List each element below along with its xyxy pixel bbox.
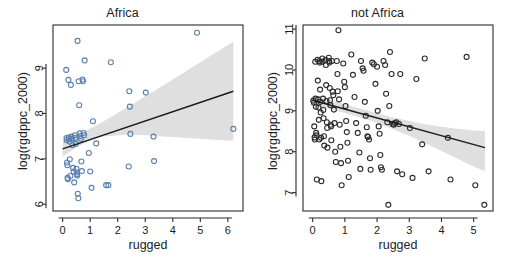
data-point — [352, 94, 357, 99]
data-point — [344, 119, 349, 124]
scatter-plot-africa: 01234566789 — [0, 0, 255, 263]
y-tick-label: 9 — [33, 65, 45, 71]
data-point — [333, 149, 338, 154]
data-point — [422, 56, 427, 61]
x-tick-label: 1 — [87, 224, 93, 236]
data-point — [344, 130, 349, 135]
data-point — [346, 158, 351, 163]
data-point — [335, 72, 340, 77]
data-point — [316, 117, 321, 122]
data-point — [362, 99, 367, 104]
scatter-plot-not-africa: 0123457891011 — [255, 0, 510, 263]
data-point — [315, 78, 320, 83]
data-point — [195, 30, 200, 35]
data-point — [386, 202, 391, 207]
x-tick-label: 6 — [225, 224, 231, 236]
data-point — [364, 125, 369, 130]
data-point — [72, 180, 77, 185]
y-tick-label: 11 — [283, 23, 295, 34]
data-point — [375, 108, 380, 113]
data-point — [341, 61, 346, 66]
x-tick-label: 4 — [438, 224, 444, 236]
data-point — [339, 161, 344, 166]
x-tick-label: 0 — [310, 224, 316, 236]
data-point — [79, 159, 84, 164]
data-point — [367, 156, 372, 161]
data-point — [337, 122, 342, 127]
data-point — [94, 141, 99, 146]
data-point — [426, 169, 431, 174]
data-point — [79, 169, 84, 174]
data-point — [387, 49, 392, 54]
data-point — [482, 202, 487, 207]
data-point — [350, 72, 355, 77]
data-point — [398, 72, 403, 77]
data-point — [82, 58, 87, 63]
data-point — [377, 131, 382, 136]
data-point — [75, 38, 80, 43]
x-tick-label: 5 — [197, 224, 203, 236]
data-point — [384, 91, 389, 96]
data-point — [389, 72, 394, 77]
panel-africa: Africa log(rgdppc_2000) rugged 012345667… — [0, 0, 255, 263]
data-point — [143, 90, 148, 95]
y-tick-label: 6 — [33, 201, 45, 207]
data-point — [400, 172, 405, 177]
plot-frame — [303, 25, 493, 211]
data-point — [90, 119, 95, 124]
data-point — [67, 157, 72, 162]
y-tick-label: 9 — [283, 108, 295, 114]
x-tick-label: 4 — [170, 224, 176, 236]
data-point — [342, 85, 347, 90]
data-point — [395, 169, 400, 174]
data-point — [349, 52, 354, 57]
data-point — [127, 89, 132, 94]
data-point — [64, 67, 69, 72]
data-point — [66, 77, 71, 82]
x-tick-label: 5 — [471, 224, 477, 236]
x-tick-label: 2 — [115, 224, 121, 236]
data-point — [376, 124, 381, 129]
data-point — [373, 81, 378, 86]
data-point — [342, 79, 347, 84]
data-point — [368, 167, 373, 172]
x-tick-label: 0 — [60, 224, 66, 236]
data-point — [378, 153, 383, 158]
data-point — [312, 124, 317, 129]
data-point — [108, 60, 113, 65]
data-point — [334, 58, 339, 63]
y-tick-label: 7 — [33, 156, 45, 162]
data-point — [68, 82, 73, 87]
data-point — [420, 142, 425, 147]
data-point — [464, 54, 469, 59]
data-point — [448, 177, 453, 182]
y-tick-label: 8 — [33, 110, 45, 116]
data-point — [77, 103, 82, 108]
data-point — [345, 140, 350, 145]
data-point — [358, 166, 363, 171]
x-tick-label: 3 — [142, 224, 148, 236]
x-tick-label: 1 — [342, 224, 348, 236]
y-tick-label: 8 — [283, 149, 295, 155]
panel-not-africa: not Africa log(rgdppc_2000) rugged 01234… — [255, 0, 510, 263]
data-point — [126, 164, 131, 169]
data-point — [473, 183, 478, 188]
data-point — [336, 28, 341, 33]
data-point — [414, 76, 419, 81]
data-point — [86, 150, 91, 155]
data-point — [357, 150, 362, 155]
data-point — [387, 103, 392, 108]
data-point — [335, 89, 340, 94]
data-point — [333, 159, 338, 164]
data-point — [339, 183, 344, 188]
data-point — [354, 121, 359, 126]
data-point — [88, 169, 93, 174]
regression-line — [313, 100, 485, 147]
data-point — [152, 159, 157, 164]
data-point — [346, 175, 351, 180]
data-point — [337, 97, 342, 102]
data-point — [355, 130, 360, 135]
x-tick-label: 3 — [406, 224, 412, 236]
data-point — [319, 179, 324, 184]
data-point — [89, 185, 94, 190]
